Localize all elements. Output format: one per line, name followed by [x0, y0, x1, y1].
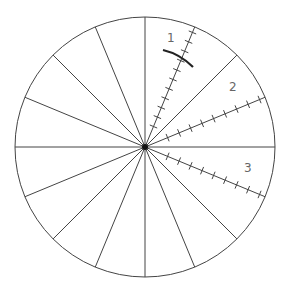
center-dot [142, 144, 148, 150]
label-2: 2 [229, 80, 237, 94]
spoke-line [53, 55, 145, 147]
diagram-svg: 1 2 3 [0, 0, 288, 293]
spoke-line [145, 147, 237, 239]
arc-mark [163, 50, 193, 67]
spoke-line [145, 55, 237, 147]
spoke-line [53, 147, 145, 239]
label-3: 3 [244, 161, 252, 175]
spoke-diagram: 1 2 3 [0, 0, 288, 293]
label-1: 1 [167, 31, 175, 45]
